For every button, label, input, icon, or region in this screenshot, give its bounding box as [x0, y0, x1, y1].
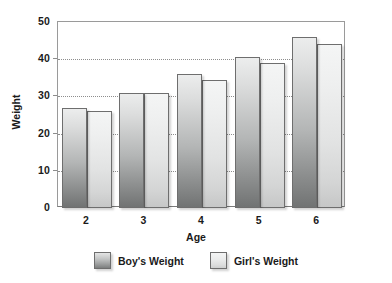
y-tick-mark-10 — [53, 170, 57, 171]
x-tick-label-4: 4 — [198, 214, 204, 226]
bar-girls-age-5 — [260, 63, 285, 208]
legend-item-girls[interactable]: Girl's Weight — [210, 252, 298, 269]
bar-chart: Weight 01020304050 23456 Age Boy's Weigh… — [0, 0, 392, 283]
legend-label-girls: Girl's Weight — [234, 255, 298, 267]
bar-girls-age-4 — [202, 80, 227, 208]
bar-boys-age-5 — [235, 57, 260, 208]
bar-boys-age-2 — [62, 108, 87, 208]
legend-label-boys: Boy's Weight — [118, 255, 184, 267]
x-tick-label-6: 6 — [313, 214, 319, 226]
x-tick-label-3: 3 — [140, 214, 146, 226]
y-tick-label-40: 40 — [4, 52, 50, 64]
legend-swatch-girls — [210, 252, 227, 269]
y-tick-label-50: 50 — [4, 15, 50, 27]
bar-boys-age-4 — [177, 74, 202, 208]
chart-legend: Boy's WeightGirl's Weight — [0, 252, 392, 269]
x-tick-label-5: 5 — [256, 214, 262, 226]
bar-girls-age-6 — [317, 44, 342, 208]
bar-boys-age-6 — [292, 37, 317, 208]
x-axis-title: Age — [0, 231, 392, 243]
y-tick-mark-30 — [53, 95, 57, 96]
y-tick-mark-20 — [53, 133, 57, 134]
plot-area — [57, 21, 345, 207]
legend-swatch-boys — [94, 252, 111, 269]
y-tick-label-20: 20 — [4, 127, 50, 139]
legend-item-boys[interactable]: Boy's Weight — [94, 252, 184, 269]
bar-girls-age-3 — [144, 93, 169, 208]
y-tick-mark-40 — [53, 58, 57, 59]
y-tick-label-10: 10 — [4, 164, 50, 176]
x-tick-label-2: 2 — [83, 214, 89, 226]
y-tick-label-30: 30 — [4, 89, 50, 101]
bar-girls-age-2 — [87, 111, 112, 208]
y-tick-label-0: 0 — [4, 201, 50, 213]
bar-boys-age-3 — [119, 93, 144, 208]
